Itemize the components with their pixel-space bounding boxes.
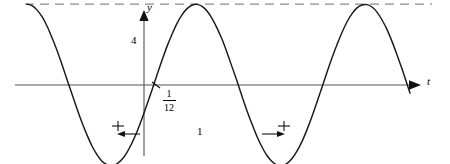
graph-canvas bbox=[0, 0, 450, 164]
phase-shift-fraction-label: 1 12 bbox=[159, 88, 179, 113]
arrow-right-icon bbox=[409, 80, 421, 90]
y-axis-label: y bbox=[147, 2, 152, 13]
cosine-curve bbox=[27, 4, 410, 164]
fraction-denominator: 12 bbox=[159, 102, 179, 113]
arrow-left-icon bbox=[117, 131, 125, 137]
period-label: 1 bbox=[197, 126, 203, 137]
fraction-numerator: 1 bbox=[159, 88, 179, 99]
amplitude-tick-label: 4 bbox=[131, 35, 137, 46]
t-axis-label: t bbox=[427, 76, 430, 87]
arrow-right-icon bbox=[277, 131, 285, 137]
trigonometric-graph-figure: y t 4 1 1 12 bbox=[0, 0, 450, 164]
fraction-bar bbox=[163, 100, 176, 101]
